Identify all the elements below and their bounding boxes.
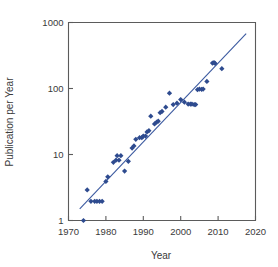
x-tick-labels: 197019801990200020102020 <box>58 226 266 237</box>
y-tick-label-100: 100 <box>48 83 64 94</box>
x-axis-title: Year <box>151 250 172 261</box>
data-point <box>163 105 168 110</box>
publication-trend-chart: 197019801990200020102020 1101001000 Year… <box>0 0 278 267</box>
y-tick-label-1000: 1000 <box>42 17 63 28</box>
data-point <box>167 91 172 96</box>
data-point <box>81 218 86 223</box>
data-point <box>118 153 123 158</box>
y-tick-labels: 1101001000 <box>42 17 63 226</box>
data-point <box>122 169 127 174</box>
x-tick-label-2000: 2000 <box>170 226 191 237</box>
x-tick-label-2010: 2010 <box>208 226 229 237</box>
data-point <box>85 187 90 192</box>
x-tick-label-1980: 1980 <box>95 226 116 237</box>
data-point <box>148 114 153 119</box>
data-point <box>219 66 224 71</box>
data-point <box>105 174 110 179</box>
data-points-group <box>81 60 225 223</box>
data-point <box>178 97 183 102</box>
data-point <box>116 158 121 163</box>
x-tick-label-1970: 1970 <box>58 226 79 237</box>
x-tick-label-1990: 1990 <box>133 226 154 237</box>
chart-canvas: 197019801990200020102020 1101001000 Year… <box>0 0 278 267</box>
data-point <box>100 199 105 204</box>
x-tick-label-2020: 2020 <box>245 226 266 237</box>
y-tick-label-1: 1 <box>58 215 63 226</box>
y-tick-label-10: 10 <box>53 149 64 160</box>
y-axis-title: Publication per Year <box>4 77 15 167</box>
data-point <box>204 79 209 84</box>
